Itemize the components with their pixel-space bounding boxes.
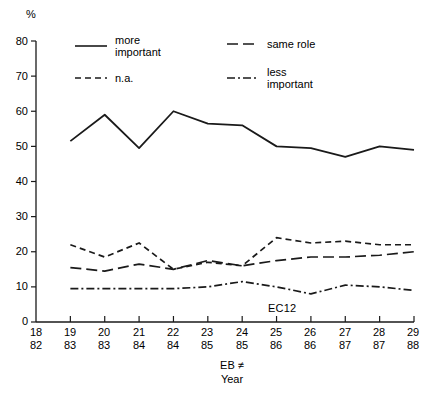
x-tick-year: 84	[160, 339, 186, 352]
x-tick-label-8: 26 86	[297, 326, 323, 352]
legend-swatch-short-dash-icon	[74, 72, 108, 84]
x-tick-year: 85	[194, 339, 220, 352]
x-tick-label-4: 22 84	[160, 326, 186, 352]
x-tick-eb: 27	[332, 326, 358, 339]
legend-item-na: n.a.	[74, 72, 133, 84]
x-tick-year: 88	[400, 339, 426, 352]
x-tick-eb: 28	[366, 326, 392, 339]
legend-swatch-dash-dot-icon	[226, 72, 260, 84]
series-line-same-role	[70, 252, 414, 271]
annotation-ec12: EC12	[268, 302, 296, 314]
x-tick-year: 83	[57, 339, 83, 352]
x-tick-year: 87	[366, 339, 392, 352]
legend: more important same role n.a. less impor…	[74, 32, 364, 94]
x-axis-caption-line2: Year	[187, 372, 277, 386]
x-tick-label-0: 18 82	[23, 326, 49, 352]
x-tick-label-9: 27 87	[332, 326, 358, 352]
x-tick-label-2: 20 83	[91, 326, 117, 352]
x-tick-label-11: 29 88	[400, 326, 426, 352]
x-tick-year: 86	[263, 339, 289, 352]
legend-item-less-important: less important	[226, 66, 313, 90]
legend-label: same role	[267, 38, 315, 50]
x-tick-label-3: 21 84	[126, 326, 152, 352]
legend-item-more-important: more important	[74, 34, 161, 58]
x-tick-year: 84	[126, 339, 152, 352]
x-tick-label-5: 23 85	[194, 326, 220, 352]
legend-swatch-long-dash-icon	[226, 38, 260, 50]
series-line-more-important	[70, 111, 414, 157]
x-tick-eb: 25	[263, 326, 289, 339]
legend-label: less important	[267, 66, 313, 90]
x-tick-year: 82	[23, 339, 49, 352]
x-tick-label-10: 28 87	[366, 326, 392, 352]
x-tick-eb: 26	[297, 326, 323, 339]
x-tick-year: 85	[229, 339, 255, 352]
x-axis-caption: EB ≠ Year	[187, 358, 277, 386]
x-tick-eb: 18	[23, 326, 49, 339]
x-tick-eb: 21	[126, 326, 152, 339]
series-lines	[70, 111, 414, 294]
y-axis-ticks	[31, 41, 36, 322]
x-tick-year: 83	[91, 339, 117, 352]
legend-label: n.a.	[115, 72, 133, 84]
x-tick-eb: 24	[229, 326, 255, 339]
line-chart: % 80 70 60 50 40 30 20 10 0 EC12 18 82 1…	[0, 0, 432, 394]
x-axis-ticks	[70, 316, 414, 322]
x-tick-eb: 19	[57, 326, 83, 339]
x-tick-eb: 29	[400, 326, 426, 339]
legend-item-same-role: same role	[226, 38, 315, 50]
legend-label: more important	[115, 34, 161, 58]
legend-swatch-solid-icon	[74, 40, 108, 52]
x-tick-label-1: 19 83	[57, 326, 83, 352]
x-tick-label-7: 25 86	[263, 326, 289, 352]
x-tick-label-6: 24 85	[229, 326, 255, 352]
x-tick-eb: 22	[160, 326, 186, 339]
x-tick-eb: 23	[194, 326, 220, 339]
x-tick-eb: 20	[91, 326, 117, 339]
x-tick-year: 86	[297, 339, 323, 352]
series-line-less-important	[70, 282, 414, 294]
x-axis-caption-line1: EB ≠	[187, 358, 277, 372]
series-line-n-a-	[70, 238, 414, 270]
x-tick-year: 87	[332, 339, 358, 352]
